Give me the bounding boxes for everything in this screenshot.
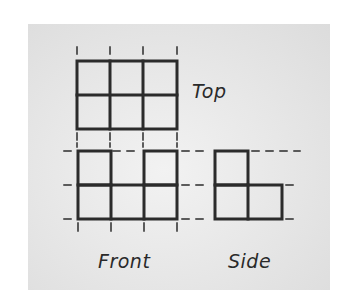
- front-view-label: Front: [98, 250, 150, 272]
- orthographic-diagram: [0, 0, 343, 304]
- top-view-grid: [77, 61, 177, 129]
- top-view-label: Top: [192, 80, 226, 102]
- side-view-grid: [215, 151, 282, 219]
- side-view-label: Side: [228, 250, 271, 272]
- front-view-projection-ticks: [78, 223, 177, 231]
- front-view-grid: [78, 151, 177, 219]
